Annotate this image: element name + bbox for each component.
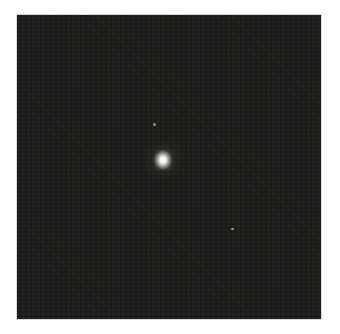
bright-point-source [154, 150, 172, 170]
faint-dot [231, 228, 234, 230]
faint-dot [153, 123, 156, 126]
